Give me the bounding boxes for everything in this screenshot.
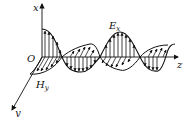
e-field-label: Ex xyxy=(108,20,120,33)
h-field-subscript: y xyxy=(44,84,50,92)
h-field-wave xyxy=(30,44,168,74)
h-field-label: Hy xyxy=(35,79,50,92)
x-axis-label: x xyxy=(33,2,39,13)
z-axis-label: z xyxy=(176,59,183,70)
e-field-subscript: x xyxy=(116,25,120,33)
e-field-vectors xyxy=(45,31,157,71)
em-wave-diagram: x O y z Ex Hy xyxy=(0,0,194,117)
h-field-symbol: H xyxy=(35,79,45,90)
origin-label: O xyxy=(27,53,35,64)
y-axis-label: y xyxy=(14,107,21,117)
